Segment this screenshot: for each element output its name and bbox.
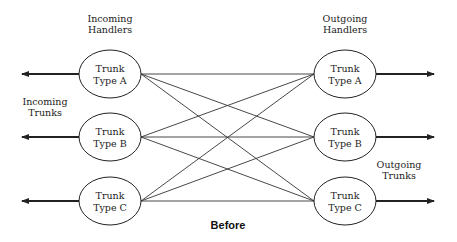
incoming-handler-label-line2: Type A [93, 75, 126, 86]
outgoing-handlers-label-line1: Outgoing [323, 13, 368, 24]
outgoing-handler-node-1: TrunkType A [314, 50, 376, 98]
incoming-handler-label-line1: Trunk [96, 63, 125, 74]
incoming-handler-node-2: TrunkType B [79, 113, 141, 161]
incoming-handler-ellipse [79, 177, 141, 225]
outgoing-handlers-label-line2: Handlers [323, 24, 367, 35]
outgoing-handler-label-line1: Trunk [331, 126, 360, 137]
outgoing-handler-label-line2: Type A [328, 75, 361, 86]
incoming-handler-label-line1: Trunk [96, 126, 125, 137]
outgoing-handler-label-line2: Type C [328, 202, 362, 213]
incoming-handler-ellipse [79, 50, 141, 98]
outgoing-handler-label-line1: Trunk [331, 63, 360, 74]
outgoing-handler-node-2: TrunkType B [314, 113, 376, 161]
outgoing-handler-node-3: TrunkType C [314, 177, 376, 225]
incoming-trunks-label-line2: Trunks [28, 107, 62, 118]
incoming-handlers-label-line1: Incoming [87, 13, 132, 24]
connection-mesh [141, 74, 314, 201]
caption-before: Before [211, 219, 246, 231]
outgoing-trunks-label-line2: Trunks [382, 170, 416, 181]
incoming-trunks-label-line1: Incoming [22, 96, 67, 107]
trunk-handler-diagram: TrunkType ATrunkType BTrunkType CTrunkTy… [0, 0, 457, 242]
outgoing-handler-label-line1: Trunk [331, 190, 360, 201]
outgoing-trunks-label-line1: Outgoing [377, 159, 422, 170]
incoming-handler-label-line2: Type B [93, 138, 126, 149]
incoming-handler-node-1: TrunkType A [79, 50, 141, 98]
incoming-handlers-label-line2: Handlers [88, 24, 132, 35]
incoming-handler-label-line1: Trunk [96, 190, 125, 201]
outgoing-handler-label-line2: Type B [328, 138, 361, 149]
outgoing-handler-ellipse [314, 50, 376, 98]
incoming-handler-node-3: TrunkType C [79, 177, 141, 225]
incoming-handler-label-line2: Type C [93, 202, 127, 213]
incoming-handler-ellipse [79, 113, 141, 161]
outgoing-handler-ellipse [314, 113, 376, 161]
outgoing-handler-ellipse [314, 177, 376, 225]
